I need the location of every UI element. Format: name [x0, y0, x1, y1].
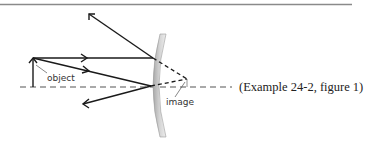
image-label-leader — [175, 82, 185, 97]
object-label-leader — [36, 65, 47, 73]
figure-caption: (Example 24-2, figure 1) — [239, 80, 363, 95]
image-label: image — [166, 97, 194, 107]
convex-mirror-ray-diagram: object image — [0, 0, 368, 144]
object-label: object — [47, 73, 75, 83]
parallel-ray — [33, 14, 153, 62]
center-ray — [33, 58, 151, 108]
object-arrow — [29, 58, 37, 87]
